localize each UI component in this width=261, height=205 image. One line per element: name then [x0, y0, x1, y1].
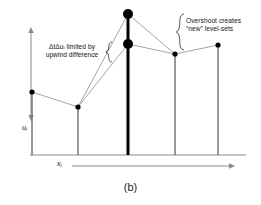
y-axis-label: ui	[22, 124, 27, 132]
marker-point-2	[75, 104, 80, 109]
marker-point-5	[215, 42, 220, 47]
marker-point-1	[29, 89, 34, 94]
upwind-limit-annotation: ΔtΔuᵢ limited by upwind difference	[36, 43, 108, 60]
overshoot-annotation: Overshoot creates “new” level-sets	[186, 17, 260, 34]
x-axis-label: xi	[57, 160, 62, 168]
y-axis-label-subscript: i	[26, 126, 27, 132]
marker-point-overshoot	[123, 39, 133, 49]
figure-container: ΔtΔuᵢ limited by upwind difference Overs…	[0, 0, 261, 205]
marker-point-peak	[123, 9, 133, 19]
x-axis-label-subscript: i	[61, 162, 62, 168]
overshoot-brace-icon	[176, 14, 184, 50]
x-axis-arrow	[72, 163, 235, 168]
y-axis-arrow	[28, 27, 33, 121]
marker-point-4	[172, 51, 177, 56]
figure-caption: (b)	[0, 181, 261, 193]
